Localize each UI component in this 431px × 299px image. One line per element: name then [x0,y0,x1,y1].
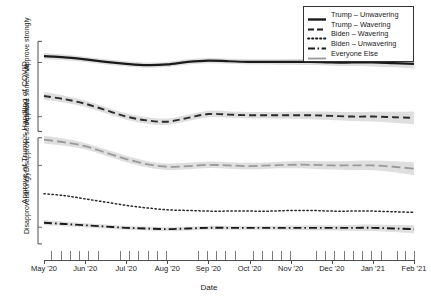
rug-tick [157,251,158,260]
rug-tick [129,251,130,260]
rug-tick [120,251,121,260]
rug-tick [88,251,89,260]
rug-tick [216,251,217,260]
rug-tick [353,251,354,260]
legend-key-icon [307,49,327,58]
rug-tick [235,251,236,260]
x-axis-tick-label: Aug '20 [145,264,189,273]
y-axis-tick-label: Approve somewhat [23,64,30,124]
rug-tick [198,251,199,260]
x-axis-tick-label: Dec '20 [310,264,354,273]
legend-key-icon [307,20,327,29]
rug-tick [253,251,254,260]
x-axis-tick-label: May '20 [22,264,66,273]
x-axis-tick-label: Nov '20 [269,264,313,273]
legend-item[interactable]: Biden – Wavering [307,29,409,39]
rug-tick [362,251,363,260]
series-line [44,194,414,213]
rug-tick [371,251,372,260]
rug-tick [325,251,326,260]
rug-tick [51,251,52,260]
legend-item[interactable]: Trump – Wavering [307,20,409,30]
legend-label: Trump – Wavering [331,20,390,29]
x-axis-tick-label: Oct '20 [228,264,272,273]
y-axis-tick-label: Approve strongly [23,17,30,70]
rug-tick [281,251,282,260]
rug-tick [405,251,406,260]
x-axis-line [44,260,415,261]
rug-tick [61,251,62,260]
rug-tick [138,251,139,260]
rug-tick [316,251,317,260]
x-axis-tick-label: Jul '20 [104,264,148,273]
y-axis-tick-label: Disapprove strongly [23,172,30,234]
x-axis-tick-label: Feb '21 [392,264,431,273]
y-axis-bracket [38,41,42,131]
rug-tick [290,251,291,260]
legend-label: Trump – Unwavering [331,10,398,19]
x-axis-title: Date [0,283,418,292]
legend-key-icon [307,29,327,38]
rug-tick [98,251,99,260]
rug-tick [334,251,335,260]
rug-tick [397,251,398,260]
rug-tick [262,251,263,260]
legend-label: Biden – Wavering [331,29,388,38]
legend-item[interactable]: Everyone Else [307,48,409,58]
confidence-band [44,220,414,233]
rug-tick [207,251,208,260]
y-axis-line [34,22,46,260]
legend-key-icon [307,39,327,48]
rug-tick [414,251,415,260]
x-axis-tick-label: Jun '20 [63,264,107,273]
y-axis-bracket [38,138,42,244]
rug-tick [381,251,382,260]
x-axis-tick-label: Sep '20 [186,264,230,273]
confidence-band [44,136,414,175]
survey-wave-rug [44,251,415,260]
legend-label: Everyone Else [331,49,378,58]
rug-tick [225,251,226,260]
rug-tick [344,251,345,260]
legend-label: Biden – Unwavering [331,39,396,48]
chart-legend: Trump – UnwaveringTrump – WaveringBiden … [303,6,414,62]
rug-tick [148,251,149,260]
legend-item[interactable]: Biden – Unwavering [307,39,409,49]
legend-key-icon [307,10,327,19]
rug-tick [79,251,80,260]
x-axis-tick-label: Jan '21 [351,264,395,273]
legend-item[interactable]: Trump – Unwavering [307,10,409,20]
rug-tick [166,251,167,260]
rug-tick [70,251,71,260]
rug-tick [272,251,273,260]
